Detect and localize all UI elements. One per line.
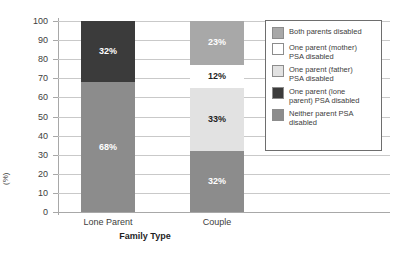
bar-segment[interactable]: 32% <box>81 21 135 82</box>
bar-couple[interactable]: 32%33%12%23% <box>190 21 244 212</box>
stacked-bar-chart: 1009080706050403020100 (%) 68%32%32%33%1… <box>0 0 400 257</box>
bar-segment[interactable]: 32% <box>190 151 244 212</box>
bar-segment[interactable]: 12% <box>190 65 244 88</box>
y-axis-tick-label: 100 <box>33 17 48 26</box>
bar-segment[interactable]: 23% <box>190 21 244 65</box>
legend-label: One parent (lone parent) PSA disabled <box>289 87 359 105</box>
legend-label: Neither parent PSA disabled <box>289 109 354 127</box>
y-axis-tick-label: 20 <box>38 170 48 179</box>
y-axis-tick-label: 60 <box>38 93 48 102</box>
y-axis-tick-label: 50 <box>38 113 48 122</box>
legend-item[interactable]: Both parents disabled <box>272 27 376 39</box>
x-axis-title: Family Type <box>0 232 290 241</box>
bar-segment-label: 32% <box>99 47 117 56</box>
bar-segment[interactable]: 68% <box>81 82 135 212</box>
y-axis-tick-label: 30 <box>38 151 48 160</box>
legend-label: Both parents disabled <box>289 27 362 36</box>
legend-swatch <box>272 65 284 77</box>
y-axis-tick-label: 10 <box>38 189 48 198</box>
bar-segment-label: 32% <box>208 177 226 186</box>
legend: Both parents disabledOne parent (mother)… <box>265 20 382 151</box>
bar-segment[interactable]: 33% <box>190 88 244 151</box>
legend-swatch <box>272 109 284 121</box>
bar-segment-label: 12% <box>208 72 226 81</box>
legend-label: One parent (father) PSA disabled <box>289 65 353 83</box>
y-axis-tick-label: 90 <box>38 36 48 45</box>
y-axis-tick-label: 0 <box>43 208 48 217</box>
x-axis-tick-label: Lone Parent <box>61 218 155 227</box>
y-axis-tick <box>53 212 58 213</box>
legend-swatch <box>272 43 284 55</box>
legend-item[interactable]: One parent (lone parent) PSA disabled <box>272 87 376 105</box>
legend-item[interactable]: One parent (mother) PSA disabled <box>272 43 376 61</box>
bar-segment-label: 23% <box>208 38 226 47</box>
gridline <box>58 212 390 213</box>
y-axis-tick-label: 80 <box>38 55 48 64</box>
x-axis-tick-label: Couple <box>170 218 264 227</box>
y-axis-tick-label: 70 <box>38 74 48 83</box>
legend-label: One parent (mother) PSA disabled <box>289 43 357 61</box>
bar-segment-label: 68% <box>99 143 117 152</box>
y-axis-title: (%) <box>2 173 10 185</box>
y-axis-tick-label: 40 <box>38 132 48 141</box>
legend-item[interactable]: Neither parent PSA disabled <box>272 109 376 127</box>
legend-item[interactable]: One parent (father) PSA disabled <box>272 65 376 83</box>
bar-segment-label: 33% <box>208 115 226 124</box>
bar-lone-parent[interactable]: 68%32% <box>81 21 135 212</box>
legend-swatch <box>272 87 284 99</box>
legend-swatch <box>272 27 284 39</box>
